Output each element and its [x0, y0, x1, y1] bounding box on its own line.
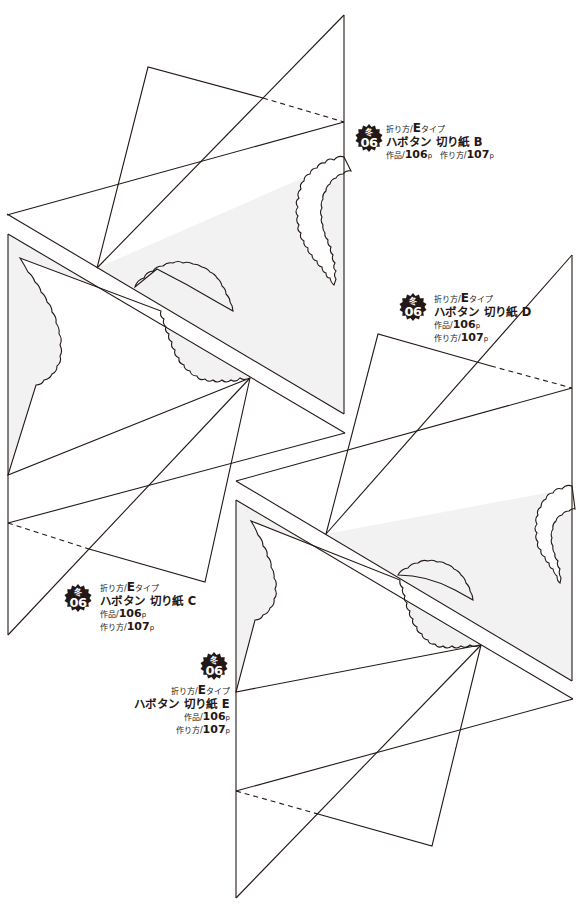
work-page: 106 [119, 607, 142, 620]
howto-label: 作り方/ [440, 151, 467, 160]
season-badge-b: 冬 06 [355, 124, 383, 152]
pattern-label-c: 折り方/Eタイプ ハボタン 切り紙 C 作品/106p 作り方/107p [100, 581, 196, 633]
howto-page: 107 [466, 148, 489, 161]
fold-type: E [198, 683, 206, 697]
fold-prefix: 折り方/ [171, 687, 198, 696]
work-unit: p [428, 152, 432, 160]
fold-prefix: 折り方/ [386, 125, 413, 134]
howto-page: 107 [461, 331, 484, 344]
howto-page: 107 [203, 723, 226, 736]
work-label: 作品/ [100, 610, 119, 619]
badge-number: 06 [399, 304, 427, 319]
fold-type: E [413, 121, 421, 135]
work-unit: p [142, 611, 146, 619]
fold-type: E [127, 580, 135, 594]
work-page: 106 [203, 710, 226, 723]
pattern-title: ハボタン 切り紙 C [100, 595, 196, 608]
pattern-title: ハボタン 切り紙 D [434, 306, 532, 319]
work-unit: p [476, 322, 480, 330]
work-label: 作品/ [184, 713, 203, 722]
howto-label: 作り方/ [434, 334, 461, 343]
fold-suffix: タイプ [469, 295, 493, 304]
kirigami-templates [0, 0, 583, 914]
work-unit: p [226, 714, 230, 722]
fold-type: E [461, 291, 469, 305]
season-badge-c: 冬 06 [64, 584, 92, 612]
badge-number: 06 [355, 135, 383, 150]
fold-suffix: タイプ [421, 125, 445, 134]
fold-prefix: 折り方/ [100, 584, 127, 593]
howto-page: 107 [127, 620, 150, 633]
howto-unit: p [489, 152, 493, 160]
season-badge-e: 冬 06 [200, 652, 228, 680]
work-label: 作品/ [386, 151, 405, 160]
howto-label: 作り方/ [176, 726, 203, 735]
work-label: 作品/ [434, 321, 453, 330]
badge-number: 06 [64, 595, 92, 610]
fold-suffix: タイプ [135, 584, 159, 593]
badge-number: 06 [200, 663, 228, 678]
season-badge-d: 冬 06 [399, 293, 427, 321]
howto-unit: p [226, 727, 230, 735]
fold-prefix: 折り方/ [434, 295, 461, 304]
howto-unit: p [150, 624, 154, 632]
work-page: 106 [405, 148, 428, 161]
pattern-label-e: 折り方/Eタイプ ハボタン 切り紙 E 作品/106p 作り方/107p [130, 684, 230, 736]
howto-unit: p [484, 335, 488, 343]
howto-label: 作り方/ [100, 623, 127, 632]
work-page: 106 [453, 318, 476, 331]
pattern-label-b: 折り方/Eタイプ ハボタン 切り紙 B 作品/106p 作り方/107p [386, 122, 494, 162]
fold-suffix: タイプ [206, 687, 230, 696]
pattern-label-d: 折り方/Eタイプ ハボタン 切り紙 D 作品/106p 作り方/107p [434, 292, 532, 344]
